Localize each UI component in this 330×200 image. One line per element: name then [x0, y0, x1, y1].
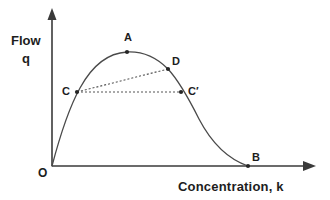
y-axis-arrow-icon [48, 8, 57, 20]
point-label-cprime: C′ [188, 86, 199, 97]
flow-concentration-diagram: Flow q O Concentration, k A D C C′ B [0, 0, 330, 200]
point-marker-c [75, 90, 79, 94]
point-label-a: A [124, 32, 132, 43]
point-label-b: B [252, 152, 260, 163]
diagram-canvas [0, 0, 330, 200]
origin-label: O [38, 167, 47, 179]
point-label-c: C [62, 86, 70, 97]
x-axis-arrow-icon [303, 161, 316, 171]
point-marker-d [166, 67, 170, 71]
point-marker-a [125, 50, 129, 54]
flow-curve [52, 52, 248, 166]
point-marker-b [246, 164, 250, 168]
x-axis-label: Concentration, k [178, 180, 284, 193]
point-label-d: D [172, 56, 180, 67]
y-axis-label-line2: q [22, 52, 30, 65]
point-marker-cprime [179, 90, 183, 94]
y-axis-label-line1: Flow [11, 34, 41, 47]
